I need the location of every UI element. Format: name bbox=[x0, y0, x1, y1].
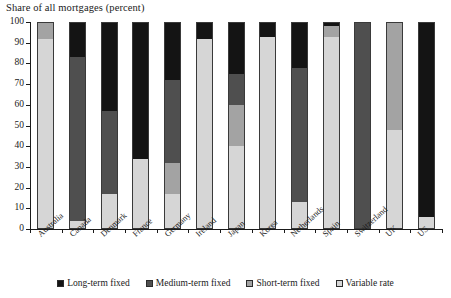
x-axis-tick bbox=[284, 229, 285, 233]
legend-swatch-icon bbox=[336, 280, 343, 287]
bar-column[interactable] bbox=[69, 22, 86, 229]
y-axis-tick bbox=[26, 105, 30, 106]
y-axis-label: 20 bbox=[15, 183, 25, 193]
bar-segment[interactable] bbox=[228, 146, 245, 229]
bar-column[interactable] bbox=[101, 22, 118, 229]
bar-column[interactable] bbox=[37, 22, 54, 229]
chart-title: Share of all mortgages (percent) bbox=[6, 2, 144, 13]
bar-segment[interactable] bbox=[132, 22, 149, 159]
bar-segment[interactable] bbox=[196, 39, 213, 229]
bar-segment[interactable] bbox=[164, 22, 181, 80]
bar-segment[interactable] bbox=[386, 130, 403, 229]
bar-segment[interactable] bbox=[101, 111, 118, 194]
legend-label: Long-term fixed bbox=[67, 278, 130, 288]
x-axis-tick bbox=[410, 229, 411, 233]
x-axis-tick bbox=[315, 229, 316, 233]
y-axis-label: 70 bbox=[15, 79, 25, 89]
bar-segment[interactable] bbox=[259, 37, 276, 230]
legend-item[interactable]: Long-term fixed bbox=[57, 278, 130, 288]
bar-segment[interactable] bbox=[37, 39, 54, 229]
bar-segment[interactable] bbox=[228, 105, 245, 146]
y-axis-line bbox=[30, 22, 31, 229]
chart-legend: Long-term fixedMedium-term fixedShort-te… bbox=[0, 278, 451, 288]
x-axis-tick bbox=[442, 229, 443, 233]
bar-segment[interactable] bbox=[323, 26, 340, 36]
legend-label: Variable rate bbox=[346, 278, 394, 288]
bar-column[interactable] bbox=[386, 22, 403, 229]
bar-column[interactable] bbox=[164, 22, 181, 229]
y-axis-label: 60 bbox=[15, 100, 25, 110]
y-axis-label: 90 bbox=[15, 38, 25, 48]
y-axis-tick bbox=[26, 84, 30, 85]
x-axis-tick bbox=[252, 229, 253, 233]
bar-segment[interactable] bbox=[228, 74, 245, 105]
y-axis-label: 50 bbox=[15, 121, 25, 131]
x-axis-tick bbox=[30, 229, 31, 233]
x-axis-tick bbox=[347, 229, 348, 233]
bar-segment[interactable] bbox=[164, 80, 181, 163]
legend-item[interactable]: Variable rate bbox=[336, 278, 394, 288]
y-axis-tick bbox=[26, 63, 30, 64]
y-axis-tick bbox=[26, 167, 30, 168]
y-axis-tick bbox=[26, 188, 30, 189]
bar-column[interactable] bbox=[228, 22, 245, 229]
bar-segment[interactable] bbox=[323, 37, 340, 230]
bar-column[interactable] bbox=[132, 22, 149, 229]
bar-segment[interactable] bbox=[69, 22, 86, 57]
bar-column[interactable] bbox=[291, 22, 308, 229]
legend-label: Short-term fixed bbox=[256, 278, 319, 288]
x-axis-tick bbox=[62, 229, 63, 233]
y-axis-tick bbox=[26, 126, 30, 127]
legend-swatch-icon bbox=[146, 280, 153, 287]
bar-segment[interactable] bbox=[37, 22, 54, 39]
bar-column[interactable] bbox=[354, 22, 371, 229]
y-axis-label: 0 bbox=[19, 224, 24, 234]
legend-swatch-icon bbox=[57, 280, 64, 287]
bar-column[interactable] bbox=[323, 22, 340, 229]
x-axis-tick bbox=[379, 229, 380, 233]
bar-segment[interactable] bbox=[196, 22, 213, 39]
bar-segment[interactable] bbox=[101, 22, 118, 111]
x-axis-tick bbox=[157, 229, 158, 233]
y-axis-tick bbox=[26, 22, 30, 23]
bar-segment[interactable] bbox=[418, 22, 435, 217]
bar-segment[interactable] bbox=[386, 22, 403, 130]
bar-column[interactable] bbox=[418, 22, 435, 229]
bar-segment[interactable] bbox=[354, 22, 371, 229]
legend-label: Medium-term fixed bbox=[156, 278, 231, 288]
y-axis-label: 100 bbox=[10, 17, 24, 27]
y-axis-label: 10 bbox=[15, 204, 25, 214]
x-axis-tick bbox=[125, 229, 126, 233]
bar-segment[interactable] bbox=[291, 22, 308, 68]
y-axis-tick bbox=[26, 146, 30, 147]
y-axis-tick bbox=[26, 43, 30, 44]
y-axis-tick bbox=[26, 208, 30, 209]
x-axis-tick bbox=[220, 229, 221, 233]
bar-column[interactable] bbox=[196, 22, 213, 229]
y-axis-label: 30 bbox=[15, 162, 25, 172]
bar-column[interactable] bbox=[259, 22, 276, 229]
legend-item[interactable]: Short-term fixed bbox=[246, 278, 319, 288]
bar-segment[interactable] bbox=[323, 22, 340, 26]
y-axis-label: 80 bbox=[15, 59, 25, 69]
legend-item[interactable]: Medium-term fixed bbox=[146, 278, 231, 288]
y-axis-label: 40 bbox=[15, 141, 25, 151]
x-axis-tick bbox=[93, 229, 94, 233]
stacked-bar-chart: Share of all mortgages (percent) 0102030… bbox=[0, 0, 451, 298]
bar-segment[interactable] bbox=[69, 57, 86, 221]
legend-swatch-icon bbox=[246, 280, 253, 287]
bar-segment[interactable] bbox=[164, 163, 181, 194]
x-axis-tick bbox=[188, 229, 189, 233]
plot-area: 0102030405060708090100 bbox=[30, 22, 442, 229]
bar-segment[interactable] bbox=[259, 22, 276, 36]
bar-segment[interactable] bbox=[228, 22, 245, 74]
bar-segment[interactable] bbox=[291, 68, 308, 203]
